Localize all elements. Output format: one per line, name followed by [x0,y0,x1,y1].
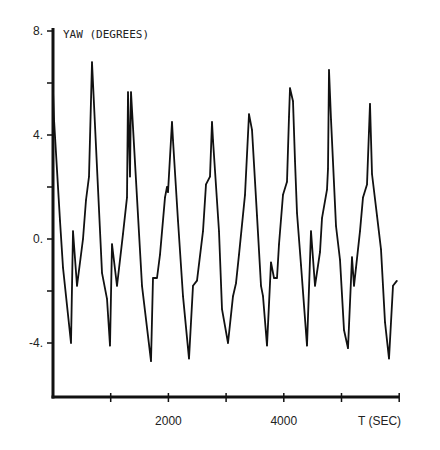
data-point [106,298,107,299]
data-point [53,119,54,120]
data-point [310,231,311,232]
data-point [355,267,356,268]
data-point [159,254,160,255]
data-point [52,90,53,91]
data-point [380,249,381,250]
data-point [294,160,295,161]
data-point [248,114,249,115]
data-point [260,285,261,286]
data-points [52,62,397,362]
data-point [91,62,92,63]
data-point [202,231,203,232]
data-point [353,285,354,286]
data-point [321,218,322,219]
data-point [152,277,153,278]
data-point [212,140,213,141]
data-point [296,212,297,213]
data-point [388,358,389,359]
data-point [376,215,377,216]
data-point [218,231,219,232]
data-point [384,322,385,323]
data-point [227,342,228,343]
data-point [209,176,210,177]
x-tick-label: 2000 [155,414,182,428]
data-point [392,285,393,286]
data-point [85,199,86,200]
data-point [111,244,112,245]
data-point [262,296,263,297]
data-point [314,285,315,286]
data-point [289,88,290,89]
data-point [238,254,239,255]
data-point [362,197,363,198]
data-point [192,285,193,286]
data-point [319,251,320,252]
data-point [167,192,168,193]
data-point [300,264,301,265]
x-axis-label: T (SEC) [358,414,401,428]
x-tick-label: 4000 [270,414,297,428]
data-point [177,220,178,221]
data-point [273,277,274,278]
data-point [328,69,329,70]
data-point [371,173,372,174]
data-point [251,129,252,130]
data-point [244,194,245,195]
data-point [282,194,283,195]
data-point [278,244,279,245]
data-point [130,92,131,93]
data-point [232,296,233,297]
yaw-time-chart: 8.4.0.-4.20004000 YAW (DEGREES) T (SEC) [0,0,440,450]
series-line-yaw [53,62,397,361]
data-point [116,285,117,286]
data-point [366,184,367,185]
data-point [88,176,89,177]
data-point [166,186,167,187]
data-point [164,197,165,198]
data-point [292,101,293,102]
y-tick-label: 8. [33,24,43,38]
data-point [288,116,289,117]
data-point [339,259,340,260]
data-point [172,140,173,141]
data-point [76,285,77,286]
data-point [270,262,271,263]
data-point [156,277,157,278]
data-point [126,197,127,198]
data-point [70,342,71,343]
data-point [396,280,397,281]
data-point [211,121,212,122]
data-point [101,272,102,273]
data-point [306,345,307,346]
y-tick-label: 0. [33,232,43,246]
y-tick-label: -4. [29,336,43,350]
data-point [276,277,277,278]
data-point [327,168,328,169]
data-point [141,285,142,286]
data-point [122,233,123,234]
data-point [109,345,110,346]
data-point [235,283,236,284]
data-point [286,181,287,182]
data-point [343,329,344,330]
data-point [188,358,189,359]
data-point [335,225,336,226]
data-point [82,238,83,239]
data-point [62,267,63,268]
data-point [326,189,327,190]
data-point [196,280,197,281]
data-point [59,220,60,221]
data-point [221,309,222,310]
y-tick-label: 4. [33,128,43,142]
data-point [182,296,183,297]
data-point [330,119,331,120]
data-point [369,103,370,104]
data-point [127,92,128,93]
data-point [150,361,151,362]
data-point [347,348,348,349]
chart-title: YAW (DEGREES) [63,28,149,41]
data-point [171,121,172,122]
data-point [256,215,257,216]
data-point [266,345,267,346]
data-point [359,231,360,232]
